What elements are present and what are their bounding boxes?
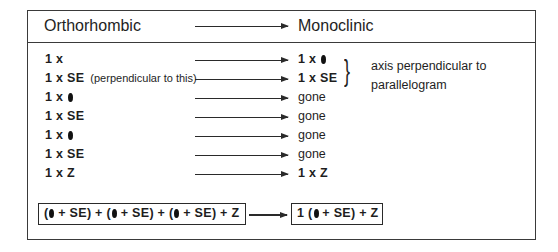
row-4-arrow bbox=[195, 117, 288, 118]
header-monoclinic: Monoclinic bbox=[298, 17, 374, 35]
header-orthorhombic: Orthorhombic bbox=[44, 17, 141, 35]
row-5-arrow bbox=[195, 136, 288, 137]
row-4-left: 1 x SE bbox=[45, 109, 84, 123]
row-2-note: (perpendicular to this) bbox=[90, 72, 196, 84]
ellipse-symbol-icon bbox=[68, 131, 73, 140]
row-6-left: 1 x SE bbox=[45, 147, 84, 161]
row-3-right: gone bbox=[298, 90, 326, 104]
annotation-line-1: axis perpendicular to bbox=[371, 57, 486, 76]
row-5-left: 1 x bbox=[45, 128, 73, 142]
row-7-left: 1 x Z bbox=[45, 166, 75, 180]
row-2-arrow bbox=[195, 79, 288, 80]
formula-monoclinic: 1 ( + SE) + Z bbox=[291, 203, 383, 225]
row-2-right: 1 x SE bbox=[298, 71, 337, 85]
row-1-right: 1 x bbox=[298, 52, 326, 66]
header-divider bbox=[27, 42, 536, 43]
axis-annotation: axis perpendicular to parallelogram bbox=[371, 57, 486, 95]
header-arrow bbox=[195, 26, 288, 27]
formula-orthorhombic: ( + SE) + ( + SE) + ( + SE) + Z bbox=[38, 203, 246, 225]
ellipse-symbol-icon bbox=[321, 55, 326, 64]
row-6-right: gone bbox=[298, 147, 326, 161]
row-1-arrow bbox=[195, 60, 288, 61]
row-3-left: 1 x bbox=[45, 90, 73, 104]
row-5-right: gone bbox=[298, 128, 326, 142]
row-3-arrow bbox=[195, 98, 288, 99]
row-2-left: 1 x SE(perpendicular to this) bbox=[45, 71, 197, 85]
row-4-right: gone bbox=[298, 109, 326, 123]
curly-brace-icon: } bbox=[344, 56, 350, 86]
annotation-line-2: parallelogram bbox=[371, 76, 486, 95]
formula-arrow bbox=[249, 214, 287, 216]
row-1-left: 1 x bbox=[45, 52, 63, 66]
row-7-right: 1 x Z bbox=[298, 166, 328, 180]
row-6-arrow bbox=[195, 155, 288, 156]
row-7-arrow bbox=[195, 174, 288, 175]
ellipse-symbol-icon bbox=[68, 93, 73, 102]
